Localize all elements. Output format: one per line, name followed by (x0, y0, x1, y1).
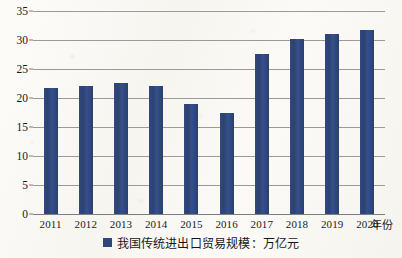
x-tick-label: 2019 (321, 218, 343, 230)
y-tick-label: 25 (17, 63, 29, 75)
y-tick-label: 15 (17, 121, 29, 133)
bar-slot: 2017 (244, 11, 279, 214)
bar-slot: 2018 (279, 11, 314, 214)
bar-slot: 2014 (139, 11, 174, 214)
bar[interactable] (184, 104, 198, 214)
legend-label: 我国传统进出口贸易规模：万亿元 (117, 234, 300, 251)
x-axis-line (33, 214, 385, 215)
bar[interactable] (79, 86, 93, 214)
x-tick-label: 2018 (286, 218, 308, 230)
x-tick-label: 2011 (40, 218, 62, 230)
bar[interactable] (255, 54, 269, 214)
bar-slot: 2020 (350, 11, 385, 214)
bar-slot: 2012 (68, 11, 103, 214)
y-tick-label: 0 (22, 208, 28, 220)
legend-swatch-icon (103, 238, 112, 247)
x-tick-label: 2013 (110, 218, 132, 230)
y-tick-label: 20 (17, 92, 29, 104)
bar-slot: 2011 (33, 11, 68, 214)
bar[interactable] (220, 113, 234, 214)
bar[interactable] (290, 39, 304, 214)
x-tick-label: 2012 (75, 218, 97, 230)
x-tick-label: 2017 (251, 218, 273, 230)
bar[interactable] (360, 30, 374, 214)
y-tick-label: 5 (22, 179, 28, 191)
bar[interactable] (149, 86, 163, 214)
bar-chart: 05101520253035 2011201220132014201520162… (0, 0, 402, 258)
x-tick-label: 2016 (215, 218, 237, 230)
plot-area: 05101520253035 2011201220132014201520162… (33, 11, 385, 214)
chart-legend: 我国传统进出口贸易规模：万亿元 (0, 234, 402, 251)
x-tick-label: 2015 (180, 218, 202, 230)
bar-series: 2011201220132014201520162017201820192020 (33, 11, 385, 214)
y-tick-label: 35 (17, 5, 29, 17)
bar[interactable] (114, 83, 128, 214)
bar[interactable] (44, 88, 58, 214)
y-tick-label: 10 (17, 150, 29, 162)
bar-slot: 2019 (315, 11, 350, 214)
x-axis-title: 年份 (371, 216, 393, 232)
bar-slot: 2015 (174, 11, 209, 214)
bar[interactable] (325, 34, 339, 214)
bar-slot: 2016 (209, 11, 244, 214)
bar-slot: 2013 (103, 11, 138, 214)
x-tick-label: 2014 (145, 218, 167, 230)
y-tick-label: 30 (17, 34, 29, 46)
